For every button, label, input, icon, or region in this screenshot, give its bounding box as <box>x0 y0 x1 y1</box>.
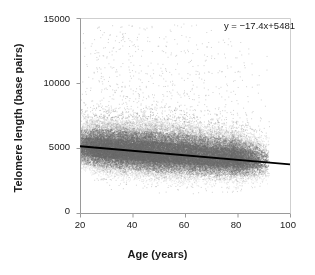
scatter-plot-canvas <box>0 0 315 275</box>
y-axis-title: Telomere length (base pairs) <box>12 8 24 228</box>
y-tick-label-5000: 5000 <box>28 141 70 152</box>
y-tick-label-0: 0 <box>28 205 70 216</box>
x-tick-label-40: 40 <box>112 219 152 230</box>
regression-equation-annotation: y = −17.4x+5481 <box>224 20 295 31</box>
y-tick-label-15000: 15000 <box>28 13 70 24</box>
x-tick-label-80: 80 <box>216 219 256 230</box>
x-axis-title: Age (years) <box>0 248 315 260</box>
x-tick-label-100: 100 <box>268 219 308 230</box>
x-tick-label-60: 60 <box>164 219 204 230</box>
telomere-scatter-figure: y = −17.4x+5481 15000 10000 5000 0 20 40… <box>0 0 315 275</box>
x-tick-label-20: 20 <box>60 219 100 230</box>
y-tick-label-10000: 10000 <box>28 77 70 88</box>
